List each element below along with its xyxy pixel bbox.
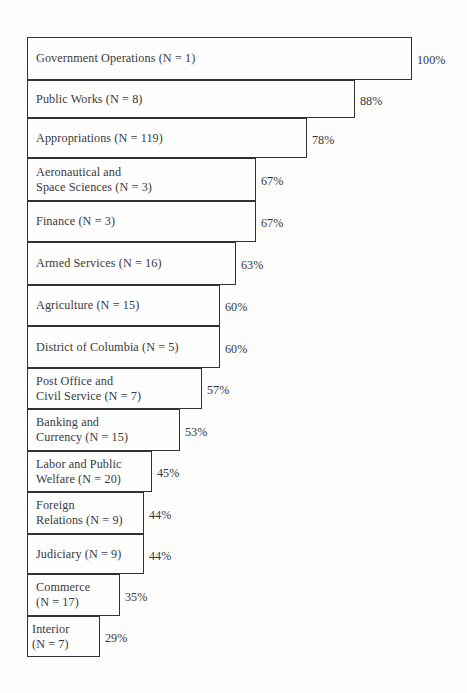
bar-value-label: 78% <box>312 134 334 146</box>
bar-value-label: 67% <box>261 175 283 187</box>
bar-category-label: Commerce (N = 17) <box>28 580 94 610</box>
bar-rect: District of Columbia (N = 5) <box>27 326 220 368</box>
bar-value-label: 44% <box>149 550 171 562</box>
bar-row: Commerce (N = 17) 35% <box>27 574 467 616</box>
bar-category-label: Appropriations (N = 119) <box>28 131 167 146</box>
bar-category-label: Armed Services (N = 16) <box>28 256 166 271</box>
bar-category-label: Aeronautical and Space Sciences (N = 3) <box>28 165 156 195</box>
bar-rect: Foreign Relations (N = 9) <box>27 492 144 534</box>
bar-value-label: 29% <box>105 632 127 644</box>
bar-row: Post Office and Civil Service (N = 7) 57… <box>27 368 467 409</box>
bar-row: Aeronautical and Space Sciences (N = 3) … <box>27 158 467 201</box>
bar-rect: Labor and Public Welfare (N = 20) <box>27 451 152 492</box>
bar-category-label: Agriculture (N = 15) <box>28 298 143 313</box>
bar-rect: Agriculture (N = 15) <box>27 285 220 326</box>
bar-category-label: Banking and Currency (N = 15) <box>28 415 132 445</box>
bar-value-label: 100% <box>417 54 445 66</box>
bar-value-label: 60% <box>225 343 247 355</box>
bar-category-label: District of Columbia (N = 5) <box>28 340 183 355</box>
bar-row: Judiciary (N = 9) 44% <box>27 534 467 574</box>
bar-rect: Judiciary (N = 9) <box>27 534 144 574</box>
bar-row: District of Columbia (N = 5) 60% <box>27 326 467 368</box>
bar-value-label: 63% <box>241 259 263 271</box>
bar-rect: Banking and Currency (N = 15) <box>27 409 180 451</box>
bar-rect: Post Office and Civil Service (N = 7) <box>27 368 202 409</box>
bar-rect: Aeronautical and Space Sciences (N = 3) <box>27 158 256 201</box>
bar-value-label: 67% <box>261 217 283 229</box>
bar-row: Banking and Currency (N = 15) 53% <box>27 409 467 451</box>
bar-rect: Interior (N = 7) <box>27 616 100 657</box>
bar-category-label: Interior (N = 7) <box>28 622 73 652</box>
bar-row: Agriculture (N = 15) 60% <box>27 285 467 326</box>
bar-row: Armed Services (N = 16) 63% <box>27 242 467 285</box>
bar-row: Government Operations (N = 1) 100% <box>27 37 467 80</box>
bar-category-label: Labor and Public Welfare (N = 20) <box>28 457 126 487</box>
bar-rect: Public Works (N = 8) <box>27 80 355 118</box>
bar-value-label: 53% <box>185 426 207 438</box>
bar-row: Interior (N = 7) 29% <box>27 616 467 657</box>
committee-percentage-bar-chart: Government Operations (N = 1) 100% Publi… <box>0 0 467 693</box>
bar-category-label: Government Operations (N = 1) <box>28 51 199 66</box>
bar-row: Public Works (N = 8) 88% <box>27 80 467 118</box>
bar-category-label: Public Works (N = 8) <box>28 92 147 107</box>
bar-row: Appropriations (N = 119) 78% <box>27 118 467 158</box>
bar-row: Foreign Relations (N = 9) 44% <box>27 492 467 534</box>
bar-value-label: 45% <box>157 467 179 479</box>
bar-value-label: 60% <box>225 301 247 313</box>
bar-rect: Appropriations (N = 119) <box>27 118 307 158</box>
bar-category-label: Post Office and Civil Service (N = 7) <box>28 374 145 404</box>
bar-row: Finance (N = 3) 67% <box>27 201 467 242</box>
bar-value-label: 44% <box>149 509 171 521</box>
bar-rect: Commerce (N = 17) <box>27 574 120 616</box>
bar-category-label: Finance (N = 3) <box>28 214 119 229</box>
bar-value-label: 88% <box>360 95 382 107</box>
bar-value-label: 57% <box>207 384 229 396</box>
bar-rect: Armed Services (N = 16) <box>27 242 236 285</box>
bar-category-label: Judiciary (N = 9) <box>28 547 125 562</box>
bar-row: Labor and Public Welfare (N = 20) 45% <box>27 451 467 492</box>
bar-value-label: 35% <box>125 591 147 603</box>
bar-rect: Finance (N = 3) <box>27 201 256 242</box>
bar-category-label: Foreign Relations (N = 9) <box>28 498 127 528</box>
bar-rect: Government Operations (N = 1) <box>27 37 412 80</box>
